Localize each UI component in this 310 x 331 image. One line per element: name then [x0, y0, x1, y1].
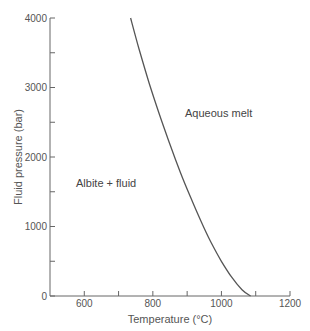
x-tick-label: 1000 — [210, 298, 233, 309]
x-ticks: 60080010001200 — [76, 291, 302, 309]
solidus-curve — [131, 18, 251, 296]
y-axis-title: Fluid pressure (bar) — [12, 109, 24, 205]
x-tick-label: 1200 — [279, 298, 302, 309]
y-tick-label: 0 — [41, 291, 47, 302]
x-tick-label: 800 — [145, 298, 162, 309]
x-axis-title: Temperature (°C) — [128, 313, 212, 325]
y-tick-label: 2000 — [25, 152, 48, 163]
y-tick-label: 3000 — [25, 82, 48, 93]
axes — [50, 18, 290, 296]
region-label-aqueous-melt: Aqueous melt — [185, 107, 252, 119]
phase-diagram-chart: 01000200030004000 60080010001200 Aqueous… — [0, 0, 310, 331]
region-label-albite-fluid: Albite + fluid — [76, 177, 136, 189]
y-tick-label: 4000 — [25, 13, 48, 24]
x-tick-label: 600 — [76, 298, 93, 309]
y-tick-label: 1000 — [25, 221, 48, 232]
